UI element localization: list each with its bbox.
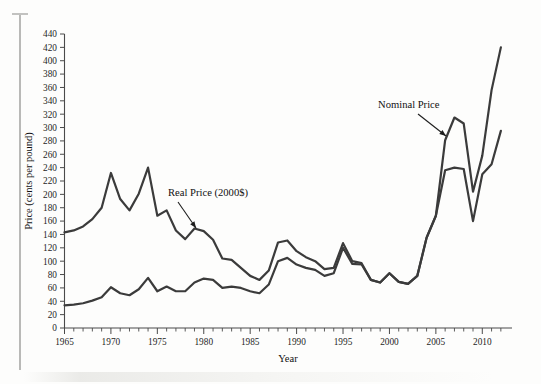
y-tick-label: 300	[43, 123, 57, 133]
chart-svg: 0204060801001201401601802002202402602803…	[0, 0, 541, 384]
x-tick-label: 1990	[287, 337, 306, 347]
x-axis-tick-labels: 1965197019751980198519901995200020052010	[55, 337, 492, 347]
y-tick-label: 120	[43, 243, 57, 253]
annotations-group: Real Price (2000$)Nominal Price	[168, 99, 446, 228]
y-tick-label: 200	[43, 190, 57, 200]
x-tick-label: 1995	[334, 337, 353, 347]
y-tick-label: 0	[52, 323, 57, 333]
y-tick-label: 100	[43, 257, 57, 267]
y-tick-label: 20	[48, 310, 58, 320]
x-tick-label: 2010	[473, 337, 492, 347]
x-tick-label: 2005	[427, 337, 446, 347]
y-tick-label: 360	[43, 83, 57, 93]
y-tick-label: 140	[43, 230, 57, 240]
y-tick-label: 220	[43, 176, 57, 186]
real-price-annotation-label: Real Price (2000$)	[168, 187, 248, 199]
y-axis-ticks	[60, 34, 65, 328]
x-tick-label: 1975	[148, 337, 167, 347]
x-tick-label: 1965	[55, 337, 74, 347]
y-tick-label: 380	[43, 69, 57, 79]
x-tick-label: 1980	[194, 337, 213, 347]
line-chart: 0204060801001201401601802002202402602803…	[0, 0, 541, 384]
y-tick-label: 440	[43, 29, 57, 39]
x-tick-label: 1985	[241, 337, 260, 347]
y-tick-label: 260	[43, 150, 57, 160]
x-axis-major-ticks	[65, 328, 483, 334]
y-tick-label: 240	[43, 163, 57, 173]
x-axis-title: Year	[278, 353, 298, 364]
x-tick-label: 2000	[380, 337, 399, 347]
x-tick-label: 1970	[102, 337, 121, 347]
y-tick-label: 40	[48, 297, 58, 307]
y-tick-label: 400	[43, 56, 57, 66]
figure-page: 0204060801001201401601802002202402602803…	[0, 0, 541, 384]
series-line-real-price	[65, 47, 501, 284]
series-line-nominal-price	[65, 131, 501, 305]
y-tick-label: 280	[43, 136, 57, 146]
data-series-group	[65, 47, 501, 305]
y-tick-label: 60	[48, 283, 58, 293]
y-tick-label: 420	[43, 43, 57, 53]
y-tick-label: 320	[43, 110, 57, 120]
nominal-price-annotation-label: Nominal Price	[378, 99, 440, 110]
y-tick-label: 180	[43, 203, 57, 213]
y-tick-label: 340	[43, 96, 57, 106]
y-tick-label: 160	[43, 216, 57, 226]
y-axis-tick-labels: 0204060801001201401601802002202402602803…	[43, 29, 57, 333]
y-axis-title: Price (cents per pound)	[23, 132, 35, 230]
y-tick-label: 80	[48, 270, 58, 280]
real-price-annotation-arrowhead	[190, 221, 196, 228]
